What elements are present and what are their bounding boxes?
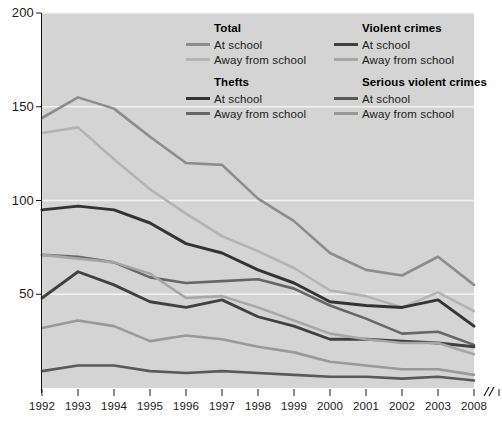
legend-item-label: At school (362, 39, 410, 51)
legend-item[interactable]: Away from school (334, 52, 474, 67)
legend-group-title: Serious violent crimes (362, 76, 474, 88)
x-axis-label-1997: 1997 (202, 400, 242, 412)
legend-group-title: Total (214, 22, 326, 34)
legend-line-swatch-icon (186, 58, 210, 61)
legend-line-swatch-icon (186, 112, 210, 115)
legend-item-label: At school (214, 93, 262, 105)
legend-item[interactable]: At school (334, 37, 474, 52)
chart-legend: TotalAt schoolAway from schoolTheftsAt s… (186, 22, 474, 130)
legend-item-label: At school (362, 93, 410, 105)
x-axis-label-2000: 2000 (310, 400, 350, 412)
legend-group-thefts: TheftsAt schoolAway from school (186, 76, 326, 121)
x-axis-label-1995: 1995 (130, 400, 170, 412)
legend-item[interactable]: At school (186, 91, 326, 106)
y-axis-label-50: 50 (2, 286, 34, 301)
legend-group-title: Thefts (214, 76, 326, 88)
chart-container: 20015010050 1992199319941995199619971998… (0, 0, 502, 425)
x-axis-label-2001: 2001 (346, 400, 386, 412)
legend-item[interactable]: Away from school (186, 52, 326, 67)
legend-group-total: TotalAt schoolAway from school (186, 22, 326, 67)
legend-item-label: At school (214, 39, 262, 51)
legend-column-1: Violent crimesAt schoolAway from schoolS… (334, 22, 474, 130)
legend-group-serious-violent-crimes: Serious violent crimesAt schoolAway from… (334, 76, 474, 121)
legend-group-violent-crimes: Violent crimesAt schoolAway from school (334, 22, 474, 67)
axis-break-slash-1 (484, 387, 489, 396)
legend-group-title: Violent crimes (362, 22, 474, 34)
legend-item[interactable]: At school (186, 37, 326, 52)
legend-item[interactable]: Away from school (334, 106, 474, 121)
axis-break-slash-2 (489, 387, 494, 396)
y-axis-label-200: 200 (2, 5, 34, 20)
legend-item-label: Away from school (214, 108, 306, 120)
y-axis-label-100: 100 (2, 193, 34, 208)
x-axis-label-1999: 1999 (274, 400, 314, 412)
y-axis-label-150: 150 (2, 99, 34, 114)
legend-line-swatch-icon (186, 43, 210, 46)
x-axis-label-1993: 1993 (58, 400, 98, 412)
legend-line-swatch-icon (334, 43, 358, 46)
legend-item-label: Away from school (214, 54, 306, 66)
legend-column-0: TotalAt schoolAway from schoolTheftsAt s… (186, 22, 326, 130)
legend-item[interactable]: Away from school (186, 106, 326, 121)
legend-item-label: Away from school (362, 108, 454, 120)
x-axis-label-2003: 2003 (418, 400, 458, 412)
legend-item-label: Away from school (362, 54, 454, 66)
legend-line-swatch-icon (334, 97, 358, 100)
legend-line-swatch-icon (334, 112, 358, 115)
x-axis-label-2002: 2002 (382, 400, 422, 412)
legend-line-swatch-icon (334, 58, 358, 61)
x-axis-label-1992: 1992 (22, 400, 62, 412)
x-axis-label-1996: 1996 (166, 400, 206, 412)
legend-item[interactable]: At school (334, 91, 474, 106)
legend-line-swatch-icon (186, 97, 210, 100)
x-axis-label-2008: 2008 (454, 400, 494, 412)
x-axis-label-1994: 1994 (94, 400, 134, 412)
x-axis-label-1998: 1998 (238, 400, 278, 412)
